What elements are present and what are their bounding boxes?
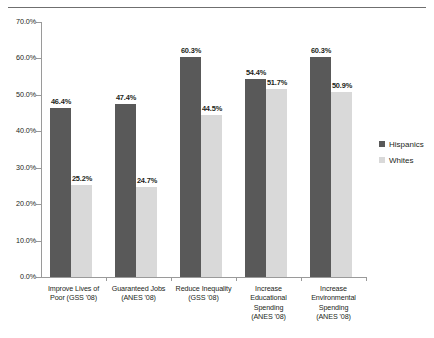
y-tick-label: 60.0% bbox=[0, 54, 36, 62]
x-tick-mark bbox=[366, 277, 367, 281]
legend-swatch-icon bbox=[379, 141, 385, 147]
x-tick-mark bbox=[236, 277, 237, 281]
y-tick-label-text: 60.0% bbox=[2, 54, 36, 62]
x-tick-mark bbox=[171, 277, 172, 281]
y-tick-label: 30.0% bbox=[0, 164, 36, 172]
legend-item[interactable]: Hispanics bbox=[379, 136, 424, 152]
category-label-line: Spending bbox=[232, 303, 305, 312]
category-label: IncreaseEnvironmentalSpending(ANES '08) bbox=[297, 284, 370, 322]
y-tick-label: 50.0% bbox=[0, 91, 36, 99]
category-label: Guaranteed Jobs(ANES '08) bbox=[102, 284, 175, 303]
category-label-line: Poor (GSS '08) bbox=[37, 293, 110, 302]
category-label: Improve Lives ofPoor (GSS '08) bbox=[37, 284, 110, 303]
y-tick-label-text: 0.0% bbox=[2, 273, 36, 281]
category-label-line: Educational bbox=[232, 293, 305, 302]
x-axis-line bbox=[41, 277, 366, 278]
y-tick-label-text: 10.0% bbox=[2, 237, 36, 245]
y-tick-label-text: 40.0% bbox=[2, 127, 36, 135]
legend-label: Whites bbox=[389, 156, 413, 165]
bar-value-label: 24.7% bbox=[127, 176, 167, 185]
bar-value-label: 47.4% bbox=[106, 93, 146, 102]
bar-value-label: 51.7% bbox=[257, 78, 297, 87]
legend: HispanicsWhites bbox=[379, 136, 424, 168]
plot-area: 46.4%25.2%47.4%24.7%60.3%44.5%54.4%51.7%… bbox=[41, 22, 366, 277]
y-tick-label-text: 30.0% bbox=[2, 164, 36, 172]
bar-value-label: 46.4% bbox=[41, 97, 81, 106]
y-tick-label-text: 50.0% bbox=[2, 91, 36, 99]
y-tick-label-text: 70.0% bbox=[2, 18, 36, 26]
bar-whites bbox=[266, 89, 287, 277]
bar-value-label: 25.2% bbox=[62, 174, 102, 183]
category-label: Reduce Inequality(GSS '08) bbox=[167, 284, 240, 303]
y-tick-label: 0.0% bbox=[0, 273, 36, 281]
category-label-line: (ANES '08) bbox=[102, 293, 175, 302]
category-label-line: Improve Lives of bbox=[37, 284, 110, 293]
category-label: IncreaseEducationalSpending(ANES '08) bbox=[232, 284, 305, 322]
category-label-line: Environmental bbox=[297, 293, 370, 302]
bar-whites bbox=[201, 115, 222, 277]
bar-group: 60.3%44.5% bbox=[171, 22, 236, 277]
legend-swatch-icon bbox=[379, 157, 385, 163]
category-label-line: Increase bbox=[297, 284, 370, 293]
bar-value-label: 60.3% bbox=[301, 46, 341, 55]
bar-value-label: 44.5% bbox=[192, 104, 232, 113]
category-label-line: (ANES '08) bbox=[297, 312, 370, 321]
y-tick-mark bbox=[36, 277, 41, 278]
legend-label: Hispanics bbox=[389, 140, 424, 149]
bar-whites bbox=[136, 187, 157, 277]
category-label-line: (ANES '08) bbox=[232, 312, 305, 321]
bar-value-label: 50.9% bbox=[322, 81, 362, 90]
y-tick-label: 70.0% bbox=[0, 18, 36, 26]
category-label-line: Reduce Inequality bbox=[167, 284, 240, 293]
bar-hispanics bbox=[115, 104, 136, 277]
bar-group: 46.4%25.2% bbox=[41, 22, 106, 277]
bar-hispanics bbox=[50, 108, 71, 277]
bar-group: 54.4%51.7% bbox=[236, 22, 301, 277]
y-tick-label-text: 20.0% bbox=[2, 200, 36, 208]
bar-whites bbox=[331, 92, 352, 277]
bar-group: 47.4%24.7% bbox=[106, 22, 171, 277]
category-label-line: Increase bbox=[232, 284, 305, 293]
x-tick-mark bbox=[301, 277, 302, 281]
bar-hispanics bbox=[180, 57, 201, 277]
bar-value-label: 60.3% bbox=[171, 46, 211, 55]
legend-item[interactable]: Whites bbox=[379, 152, 424, 168]
bar-chart: 70.0%60.0%50.0%40.0%30.0%20.0%10.0%0.0% … bbox=[0, 0, 434, 338]
x-tick-mark bbox=[106, 277, 107, 281]
category-label-line: Spending bbox=[297, 303, 370, 312]
bar-whites bbox=[71, 185, 92, 277]
y-tick-label: 20.0% bbox=[0, 200, 36, 208]
category-label-line: Guaranteed Jobs bbox=[102, 284, 175, 293]
category-label-line: (GSS '08) bbox=[167, 293, 240, 302]
bar-value-label: 54.4% bbox=[236, 68, 276, 77]
bar-group: 60.3%50.9% bbox=[301, 22, 366, 277]
top-divider-rule bbox=[8, 7, 426, 8]
bar-hispanics bbox=[310, 57, 331, 277]
y-tick-label: 10.0% bbox=[0, 237, 36, 245]
bar-hispanics bbox=[245, 79, 266, 277]
y-tick-label: 40.0% bbox=[0, 127, 36, 135]
